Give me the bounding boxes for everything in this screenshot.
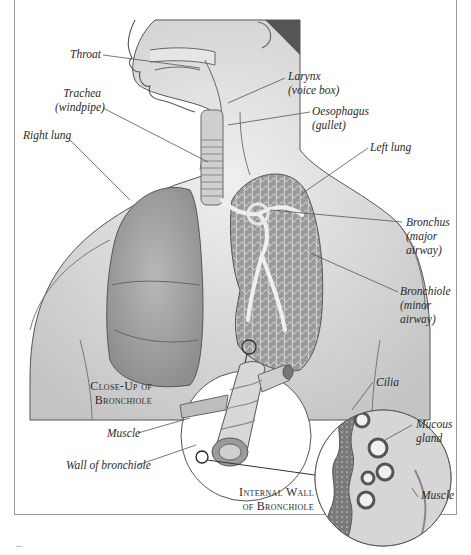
label-cilia: Cilia [376,375,399,389]
label-muscle-closeup: Muscle [107,426,140,440]
label-trachea-line1: Trachea [55,86,101,100]
label-oesophagus: Oesophagus (gullet) [312,104,369,132]
label-mucous-gland-line2: gland [416,431,452,445]
title-closeup-line1: Close-Up of [60,379,152,393]
label-bronchus-line1: Bronchus [406,215,450,229]
label-oesophagus-line2: (gullet) [312,118,369,132]
title-closeup-line2: Bronchiole [60,393,152,407]
corner-mark [16,546,22,553]
label-bronchus: Bronchus (major airway) [406,215,450,257]
label-mucous-gland: Mucous gland [416,417,452,445]
label-larynx-line2: (voice box) [288,83,339,97]
title-closeup-bronchiole: Close-Up of Bronchiole [60,379,152,407]
label-bronchiole-line3: airway) [400,312,451,326]
label-bronchiole-line1: Bronchiole [400,284,451,298]
label-trachea-line2: (windpipe) [55,100,101,114]
label-left-lung: Left lung [370,140,411,154]
title-internal-wall-line2: of Bronchiole [198,499,314,513]
label-oesophagus-line1: Oesophagus [312,104,369,118]
label-bronchus-line2: (major [406,229,450,243]
label-bronchiole-line2: (minor [400,298,451,312]
label-larynx-line1: Larynx [288,69,339,83]
label-bronchiole: Bronchiole (minor airway) [400,284,451,326]
label-mucous-gland-line1: Mucous [416,417,452,431]
label-throat: Throat [70,47,101,61]
trachea [201,110,223,205]
label-trachea: Trachea (windpipe) [55,86,101,114]
label-larynx: Larynx (voice box) [288,69,339,97]
title-internal-wall: Internal Wall of Bronchiole [198,485,314,513]
label-bronchus-line3: airway) [406,243,450,257]
left-lung [222,174,323,371]
label-right-lung: Right lung [23,128,71,142]
title-internal-wall-line1: Internal Wall [198,485,314,499]
label-muscle-internal: Muscle [421,488,454,502]
label-wall-of-bronchiole: Wall of bronchiole [66,458,151,472]
